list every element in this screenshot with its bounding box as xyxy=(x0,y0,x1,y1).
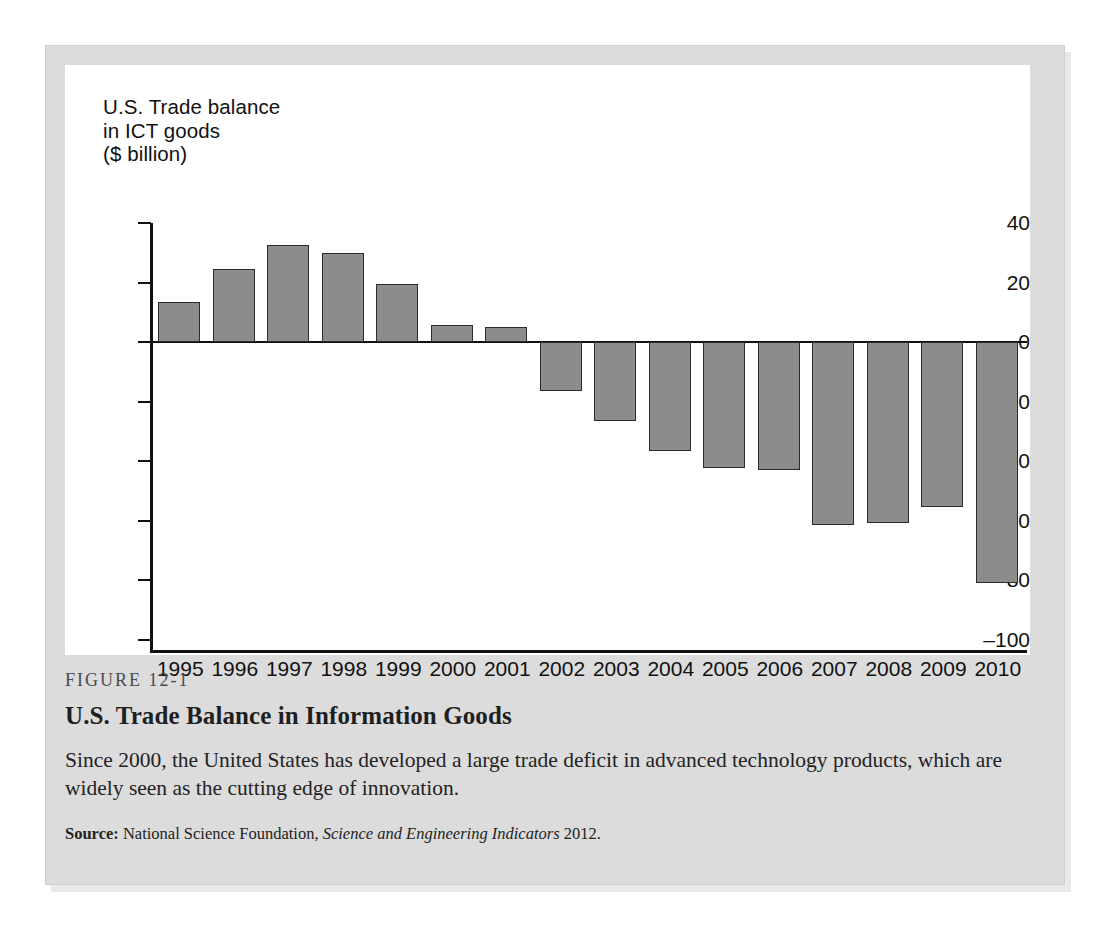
chart-axis-title: U.S. Trade balance in ICT goods ($ billi… xyxy=(103,95,280,166)
figure-description: Since 2000, the United States has develo… xyxy=(65,746,1010,802)
bar xyxy=(703,342,745,468)
bar xyxy=(322,253,364,342)
figure-number: FIGURE 12-1 xyxy=(65,670,1030,691)
bar-chart: U.S. Trade balance in ICT goods ($ billi… xyxy=(65,65,1030,655)
bar xyxy=(267,245,309,342)
source-year: 2012. xyxy=(564,824,601,843)
source-publication: Science and Engineering Indicators xyxy=(323,824,560,843)
y-axis-tick xyxy=(138,520,151,522)
bar xyxy=(431,325,473,342)
y-axis-tick xyxy=(138,579,151,581)
y-axis-tick xyxy=(138,282,151,284)
bar xyxy=(158,302,200,342)
bar xyxy=(758,342,800,470)
y-axis-tick xyxy=(138,222,151,224)
bar xyxy=(376,284,418,342)
y-axis-tick-label: 40 xyxy=(966,211,1030,235)
bar xyxy=(594,342,636,421)
figure-box: U.S. Trade balance in ICT goods ($ billi… xyxy=(45,45,1065,885)
bar xyxy=(649,342,691,451)
x-axis-line xyxy=(150,650,1027,653)
bar xyxy=(485,327,527,342)
bar xyxy=(921,342,963,507)
chart-panel: U.S. Trade balance in ICT goods ($ billi… xyxy=(65,65,1030,655)
bar xyxy=(812,342,854,525)
source-organization: National Science Foundation, xyxy=(123,824,319,843)
y-axis-tick xyxy=(138,460,151,462)
figure-source: Source: National Science Foundation, Sci… xyxy=(65,824,1030,844)
bar xyxy=(213,269,255,342)
y-axis-tick xyxy=(138,401,151,403)
y-axis-tick xyxy=(138,341,151,343)
bar xyxy=(867,342,909,523)
figure-caption: FIGURE 12-1 U.S. Trade Balance in Inform… xyxy=(65,670,1030,844)
y-axis-line xyxy=(150,223,153,653)
source-label: Source: xyxy=(65,824,119,843)
y-axis-tick-label: –100 xyxy=(966,628,1030,652)
bar xyxy=(540,342,582,391)
bar xyxy=(976,342,1018,583)
y-axis-tick-label: 20 xyxy=(966,271,1030,295)
y-axis-tick xyxy=(138,639,151,641)
figure-heading: U.S. Trade Balance in Information Goods xyxy=(65,702,1030,730)
